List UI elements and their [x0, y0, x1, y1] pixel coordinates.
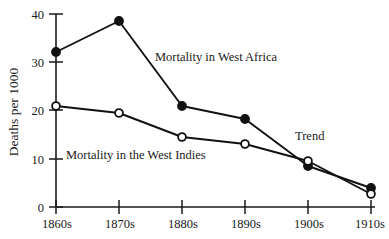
- series-line-west-africa: [56, 21, 371, 188]
- x-tick-label-1900s: 1900s: [294, 217, 324, 231]
- annotation-west-africa: Mortality in West Africa: [155, 50, 277, 64]
- chart-figure: 40 30 20 10 0 1860s 1870s 1880s 1890s 19…: [0, 0, 389, 239]
- data-point-west-indies-1900s: [304, 157, 312, 165]
- data-point-west-indies-1910s: [367, 190, 375, 198]
- x-tick-label-1860s: 1860s: [42, 217, 72, 231]
- y-tick-label-20: 20: [32, 104, 45, 118]
- data-point-west-africa-1870s: [115, 17, 123, 25]
- y-axis-title: Deaths per 1000: [6, 68, 21, 157]
- x-tick-label-1870s: 1870s: [105, 217, 135, 231]
- data-point-west-africa-1860s: [52, 48, 60, 56]
- y-tick-label-0: 0: [38, 201, 44, 215]
- annotation-west-indies: Mortality in the West Indies: [66, 148, 206, 162]
- data-point-west-africa-1880s: [178, 102, 186, 110]
- data-point-west-indies-1890s: [241, 140, 249, 148]
- y-tick-label-30: 30: [32, 56, 45, 70]
- x-tick-label-1890s: 1890s: [231, 217, 261, 231]
- data-point-west-indies-1880s: [178, 133, 186, 141]
- annotation-trend: Trend: [295, 129, 325, 143]
- data-point-west-indies-1860s: [52, 102, 60, 110]
- y-tick-label-40: 40: [32, 8, 45, 22]
- data-point-west-indies-1870s: [115, 109, 123, 117]
- chart-plot-area: 40 30 20 10 0 1860s 1870s 1880s 1890s 19…: [0, 0, 389, 239]
- y-tick-label-10: 10: [32, 153, 45, 167]
- data-point-west-africa-1890s: [241, 115, 249, 123]
- x-tick-label-1880s: 1880s: [168, 217, 198, 231]
- x-tick-label-1910s: 1910s: [355, 217, 385, 231]
